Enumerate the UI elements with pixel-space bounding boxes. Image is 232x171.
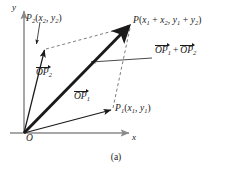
point-label-p1: P1(x1, y1) [115,104,151,114]
p-comma: , [168,15,170,25]
sum-operator: + [171,45,180,55]
sum-left-base: OP [155,45,168,55]
sum-left-sub: 1 [168,49,171,56]
point-label-p-sum: P(x1 + x2, y1 + y2) [133,16,202,26]
op2-base: OP [36,67,49,77]
sum-right-base: OP [180,45,193,55]
p2-comma: , [46,13,48,23]
point-label-p2: P2(x2, y2) [26,14,62,24]
vector-addition-figure: y x O P2(x2, y2) P(x1 + x2, y1 + y2) P1(… [0,0,232,171]
y-axis-label: y [12,3,16,12]
p-y1-sub: 1 [177,19,180,26]
vector-label-sum: OP1+OP2 [155,42,196,56]
p1-comma: , [135,103,137,113]
vector-sum-arrow [24,26,129,133]
origin-label: O [26,134,33,144]
leader-line-sum-label [91,58,152,62]
figure-caption: (a) [0,152,232,162]
op1-base: OP [74,91,87,101]
p2-paren-close: ) [59,13,62,23]
p-paren-close: ) [198,15,201,25]
p-plus-y: + [183,15,188,25]
op1-sub: 1 [87,95,90,102]
p-plus-x: + [152,15,157,25]
p1-paren-close: ) [148,103,151,113]
vector-label-op2: OP2 [36,64,52,78]
leader-line-p2-label [37,22,41,44]
x-axis-label: x [132,133,136,142]
p-x1-sub: 1 [147,19,150,26]
op2-sub: 2 [49,71,52,78]
vector-label-op1: OP1 [74,88,90,102]
sum-right-sub: 2 [193,49,196,56]
